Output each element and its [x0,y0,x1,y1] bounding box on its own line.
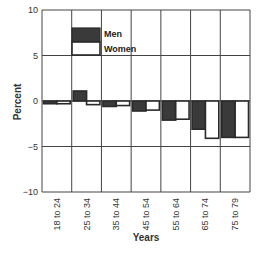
bar-chart: 1050−5−10 18 to 2425 to 3435 to 4445 to … [0,0,263,258]
y-tick-label: 10 [28,5,38,15]
x-tick-label: 35 to 44 [111,198,121,231]
bars [44,91,249,138]
bar-men [162,101,175,120]
legend-swatch-men [72,28,100,42]
bar-men [192,101,205,129]
x-tick-label: 75 to 79 [230,198,240,231]
bar-women [205,101,218,138]
bar-men [133,101,146,111]
x-axis-title: Years [133,232,160,243]
y-tick-label: 0 [33,96,38,106]
bar-men [222,101,235,137]
x-tick-label: 45 to 54 [141,198,151,231]
x-tick-label: 55 to 64 [171,198,181,231]
legend-label-men: Men [104,29,122,39]
bar-women [176,101,189,119]
x-tick-label: 25 to 34 [82,198,92,231]
y-tick-label: −10 [23,187,38,197]
bar-men [44,101,57,104]
bar-women [116,101,129,106]
bar-women [87,101,100,105]
bar-men [73,91,86,101]
bar-women [57,101,70,104]
legend-label-women: Women [104,44,136,54]
y-tick-label: 5 [33,51,38,61]
x-axis-ticks: 18 to 2425 to 3435 to 4445 to 5455 to 64… [52,198,240,231]
bar-women [235,101,248,137]
legend: Men Women [72,28,136,55]
bar-women [146,101,159,110]
y-axis-title: Percent [12,83,23,120]
x-tick-label: 18 to 24 [52,198,62,231]
y-axis-ticks: 1050−5−10 [23,5,38,197]
bar-men [103,101,116,106]
x-tick-label: 65 to 74 [200,198,210,231]
legend-swatch-women [72,42,100,55]
y-tick-label: −5 [28,142,38,152]
